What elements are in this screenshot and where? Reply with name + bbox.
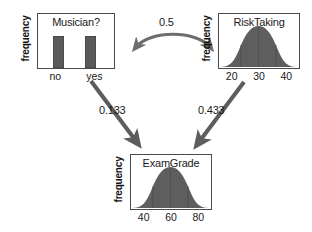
examgrade-tick-40: 40 <box>130 211 157 223</box>
examgrade-y-axis-label: frequency <box>113 152 124 208</box>
musician-y-axis-label: frequency <box>20 11 31 67</box>
edge-musician-risktaking-arrow <box>136 34 210 47</box>
musician-panel-title: Musician? <box>38 16 114 28</box>
risktaking-tick-40: 40 <box>273 70 300 82</box>
examgrade-panel: ExamGrade <box>130 154 212 210</box>
risktaking-panel: RiskTaking <box>218 13 300 69</box>
edge-label-risktaking-examgrade: 0.433 <box>198 104 225 116</box>
musician-panel: Musician? <box>37 13 115 69</box>
musician-category-no: no <box>49 70 61 82</box>
edge-label-correlation: 0.5 <box>159 16 174 28</box>
examgrade-density-curve <box>131 155 210 208</box>
musician-category-yes: yes <box>86 70 102 82</box>
risktaking-tick-20: 20 <box>218 70 245 82</box>
path-diagram-canvas: 0.5 0.133 0.433 frequency Musician? no y… <box>0 0 312 232</box>
examgrade-tick-labels: 40 60 80 <box>130 211 212 223</box>
examgrade-tick-60: 60 <box>157 211 184 223</box>
edge-label-musician-examgrade: 0.133 <box>99 104 126 116</box>
risktaking-density-curve <box>219 14 298 67</box>
musician-bar-yes <box>85 36 96 68</box>
risktaking-y-axis-label: frequency <box>201 11 212 67</box>
examgrade-tick-80: 80 <box>185 211 212 223</box>
musician-bar-no <box>53 36 64 68</box>
musician-category-labels: no yes <box>37 70 115 82</box>
risktaking-tick-labels: 20 30 40 <box>218 70 300 82</box>
risktaking-tick-30: 30 <box>245 70 272 82</box>
